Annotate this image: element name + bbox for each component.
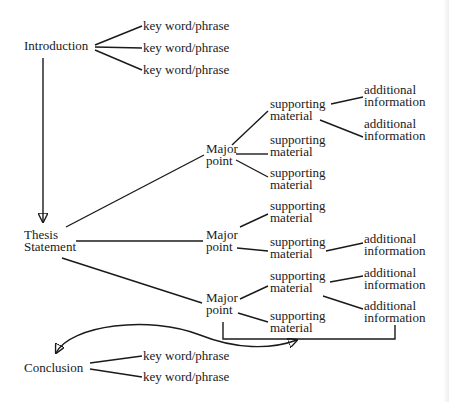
m2-supporting-2b: material — [270, 248, 313, 260]
intro-keyword-2: key word/phrase — [143, 42, 229, 54]
conclusion-keyword-2: key word/phrase — [143, 371, 229, 383]
sup1-add2-line — [320, 120, 363, 137]
m1-additional-1b: information — [364, 96, 425, 108]
m2-supporting-1b: material — [270, 212, 313, 224]
concl-kw2-line — [90, 369, 142, 377]
conclusion-label: Conclusion — [24, 362, 83, 374]
introduction-label: Introduction — [24, 40, 88, 52]
m2-additional-1b: information — [364, 245, 425, 257]
major-point-1-line2: point — [206, 155, 233, 167]
major3-sup1-line — [240, 286, 268, 299]
major2-sup2-line — [237, 248, 268, 251]
m1-supporting-1b: material — [270, 110, 313, 122]
major-point-2-line2: point — [206, 241, 233, 253]
major1-sup3-line — [236, 160, 268, 177]
major1-sup1-line — [232, 111, 268, 145]
sup-add2-line — [323, 296, 363, 309]
m3-additional-2b: information — [364, 312, 425, 324]
intro-keyword-3: key word/phrase — [143, 64, 229, 76]
thesis-major1-line — [66, 155, 204, 227]
m1-supporting-3b: material — [270, 179, 313, 191]
sup-add-line — [330, 276, 363, 282]
m1-supporting-2b: material — [270, 146, 313, 158]
major3-sup2-line — [238, 313, 268, 322]
m1-additional-2b: information — [364, 130, 425, 142]
conclusion-keyword-1: key word/phrase — [143, 350, 229, 362]
m3-supporting-1b: material — [270, 282, 313, 294]
intro-keyword-1: key word/phrase — [143, 20, 229, 32]
thesis-label-line2: Statement — [24, 241, 76, 253]
major-point-3-line2: point — [206, 304, 233, 316]
major2-sup1-line — [240, 214, 268, 227]
essay-structure-diagram: Introduction key word/phrase key word/ph… — [0, 0, 449, 402]
thesis-major3-line — [62, 258, 202, 303]
intro-kw2-line — [95, 47, 142, 48]
m3-supporting-2b: material — [270, 322, 313, 334]
m3-additional-1b: information — [364, 279, 425, 291]
intro-kw1-line — [95, 26, 142, 45]
sup2-add1-line — [326, 243, 363, 251]
concl-kw1-line — [90, 356, 142, 363]
connector-lines — [0, 0, 449, 402]
intro-kw3-line — [95, 50, 142, 70]
sup1-add1-line — [331, 97, 363, 104]
